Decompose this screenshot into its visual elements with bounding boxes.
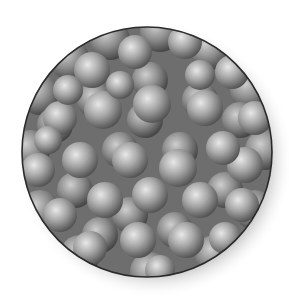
sphere (62, 142, 98, 178)
sphere (87, 182, 123, 218)
sphere (182, 182, 218, 218)
sphere (187, 90, 223, 126)
sphere (168, 222, 204, 258)
sphere (53, 75, 83, 105)
sphere (112, 142, 148, 178)
sphere (43, 198, 77, 232)
spheres-illustration (0, 0, 289, 298)
sphere (159, 149, 197, 187)
sphere (133, 85, 171, 123)
sphere (120, 222, 156, 258)
sphere (206, 131, 240, 165)
sphere (34, 126, 62, 154)
sphere (118, 35, 152, 69)
sphere (106, 71, 134, 99)
sphere (185, 60, 215, 90)
sphere (132, 177, 168, 213)
